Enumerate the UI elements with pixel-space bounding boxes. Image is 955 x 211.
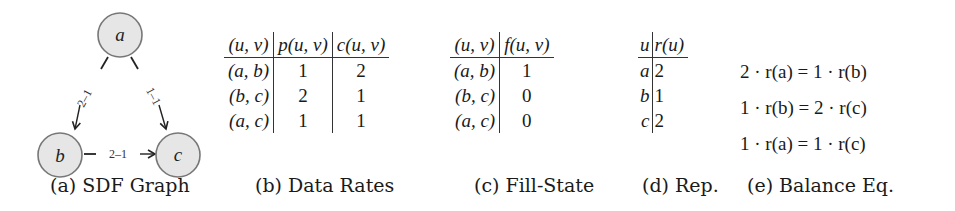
table-header-row: (u, v) p(u, v) c(u, v) [224, 32, 389, 58]
cell: 1 [332, 83, 389, 108]
header-cell: f(u, v) [500, 32, 554, 58]
row-label: b [638, 83, 652, 108]
header-cell: c(u, v) [332, 32, 389, 58]
row-label: (a, b) [450, 58, 500, 84]
fill-state-panel: (u, v) f(u, v) (a, b) 1 (b, c) 0 (a, c) … [450, 32, 554, 133]
balance-equation: 1 · r(b) = 2 · r(c) [740, 90, 867, 126]
cell: 1 [274, 108, 333, 133]
caption-fill-state: (c) Fill-State [474, 174, 594, 196]
balance-equation: 1 · r(a) = 1 · r(c) [740, 126, 867, 162]
table-header-row: u r(u) [638, 32, 688, 58]
row-label: c [638, 108, 652, 133]
table-row: (b, c) 2 1 [224, 83, 389, 108]
balance-equations-panel: 2 · r(a) = 1 · r(b) 1 · r(b) = 2 · r(c) … [740, 54, 867, 162]
cell: 1 [652, 83, 688, 108]
sdf-graph-panel: 2–1 1–1 2–1 a b c (a) SDF Graph [0, 0, 220, 211]
table-row: (a, b) 1 2 [224, 58, 389, 84]
node-label-c: c [174, 144, 183, 165]
edge-label-a-b: 2–1 [74, 87, 95, 109]
node-label-b: b [55, 145, 65, 166]
data-rates-table: (u, v) p(u, v) c(u, v) (a, b) 1 2 (b, c)… [224, 32, 389, 133]
caption-balance: (e) Balance Eq. [747, 174, 894, 196]
table-header-row: (u, v) f(u, v) [450, 32, 554, 58]
table-row: b 1 [638, 83, 688, 108]
edge-b-c: 2–1 [84, 147, 155, 161]
row-label: (a, c) [450, 108, 500, 133]
row-label: (b, c) [450, 83, 500, 108]
edge-label-a-c: 1–1 [143, 85, 164, 107]
repetition-panel: u r(u) a 2 b 1 c 2 [638, 32, 688, 133]
header-cell: p(u, v) [274, 32, 333, 58]
repetition-table: u r(u) a 2 b 1 c 2 [638, 32, 688, 133]
row-label: (a, b) [224, 58, 274, 84]
table-row: c 2 [638, 108, 688, 133]
cell: 0 [500, 108, 554, 133]
cell: 2 [652, 58, 688, 84]
cell: 0 [500, 83, 554, 108]
header-cell: u [638, 32, 652, 58]
table-row: (a, c) 1 1 [224, 108, 389, 133]
cell: 2 [274, 83, 333, 108]
cell: 1 [274, 58, 333, 84]
node-a: a [98, 13, 142, 57]
row-label: a [638, 58, 652, 84]
edge-label-b-c: 2–1 [109, 147, 127, 161]
table-row: (a, b) 1 [450, 58, 554, 84]
header-cell: (u, v) [450, 32, 500, 58]
row-label: (a, c) [224, 108, 274, 133]
cell: 2 [652, 108, 688, 133]
balance-equation: 2 · r(a) = 1 · r(b) [740, 54, 867, 90]
header-cell: r(u) [652, 32, 688, 58]
node-c: c [156, 133, 200, 177]
cell: 1 [500, 58, 554, 84]
caption-data-rates: (b) Data Rates [255, 174, 394, 196]
table-row: a 2 [638, 58, 688, 84]
cell: 1 [332, 108, 389, 133]
caption-repetition: (d) Rep. [642, 174, 719, 196]
data-rates-panel: (u, v) p(u, v) c(u, v) (a, b) 1 2 (b, c)… [224, 32, 389, 133]
fill-state-table: (u, v) f(u, v) (a, b) 1 (b, c) 0 (a, c) … [450, 32, 554, 133]
edge-a-c: 1–1 [131, 57, 166, 129]
node-b: b [38, 133, 82, 177]
table-row: (b, c) 0 [450, 83, 554, 108]
header-cell: (u, v) [224, 32, 274, 58]
table-row: (a, c) 0 [450, 108, 554, 133]
row-label: (b, c) [224, 83, 274, 108]
edge-a-b: 2–1 [74, 57, 108, 129]
caption-sdf-graph: (a) SDF Graph [50, 174, 190, 196]
node-label-a: a [115, 24, 125, 45]
cell: 2 [332, 58, 389, 84]
sdf-graph: 2–1 1–1 2–1 a b c [0, 0, 220, 180]
